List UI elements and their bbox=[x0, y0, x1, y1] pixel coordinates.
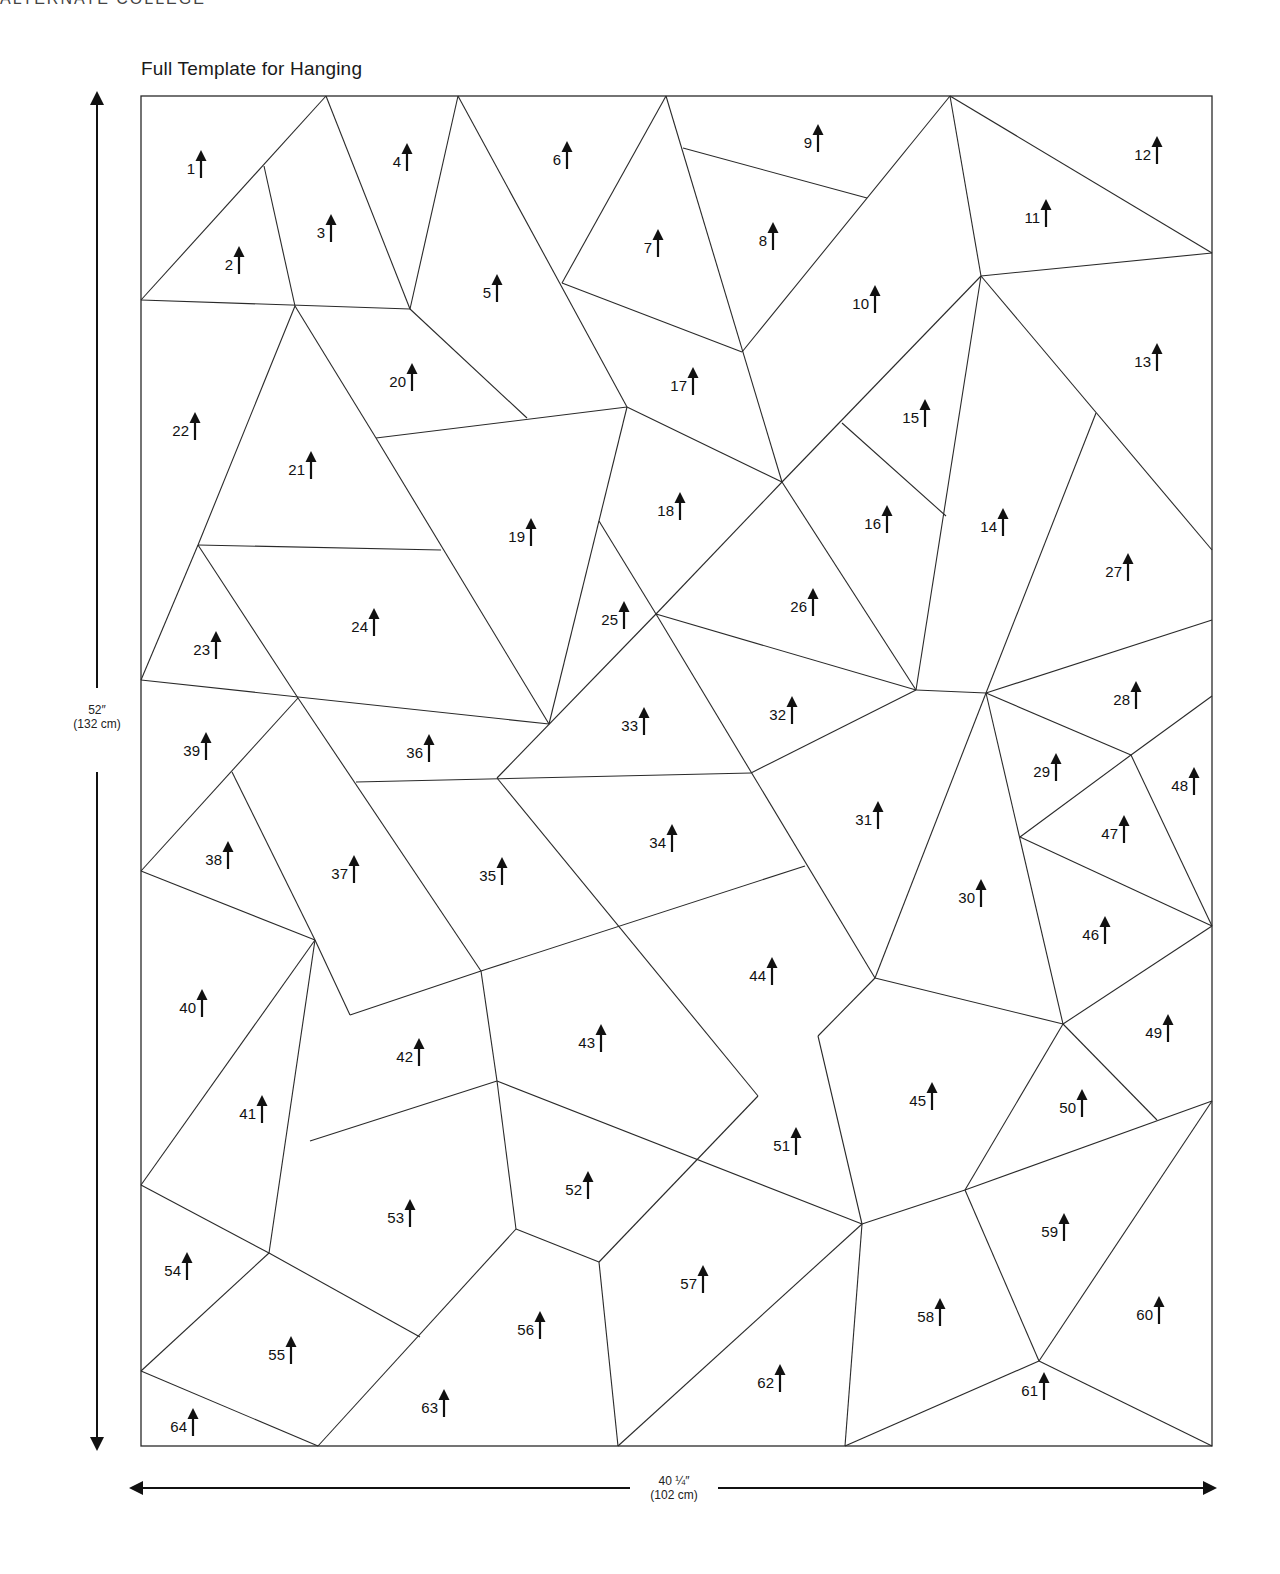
piece-number: 8 bbox=[759, 232, 767, 249]
piece-number: 37 bbox=[331, 865, 348, 882]
piece-label-57: 57 bbox=[680, 1265, 708, 1293]
up-arrow-icon bbox=[1100, 916, 1111, 944]
piece-label-30: 30 bbox=[958, 879, 986, 907]
piece-label-40: 40 bbox=[179, 989, 207, 1017]
piece-label-28: 28 bbox=[1113, 681, 1141, 709]
piece-edge bbox=[1039, 1361, 1212, 1446]
up-arrow-icon bbox=[424, 734, 435, 762]
piece-number: 19 bbox=[508, 528, 525, 545]
piece-label-64: 64 bbox=[170, 1408, 198, 1436]
piece-label-2: 2 bbox=[225, 246, 245, 274]
piece-label-47: 47 bbox=[1101, 815, 1129, 843]
piece-label-55: 55 bbox=[268, 1336, 296, 1364]
piece-label-17: 17 bbox=[670, 367, 698, 395]
up-arrow-icon bbox=[873, 801, 884, 829]
piece-edge bbox=[376, 438, 549, 724]
up-arrow-icon bbox=[349, 855, 360, 883]
piece-edge bbox=[986, 620, 1212, 693]
piece-edge bbox=[141, 680, 549, 724]
up-arrow-icon bbox=[667, 824, 678, 852]
up-arrow-icon bbox=[920, 399, 931, 427]
up-arrow-icon bbox=[439, 1389, 450, 1417]
piece-edges bbox=[141, 96, 1212, 1446]
piece-number: 41 bbox=[239, 1105, 256, 1122]
piece-edge bbox=[141, 300, 410, 309]
piece-edge bbox=[410, 96, 458, 309]
piece-number: 35 bbox=[479, 867, 496, 884]
piece-label-5: 5 bbox=[483, 274, 503, 302]
piece-edge bbox=[1020, 837, 1212, 926]
up-arrow-icon bbox=[1039, 1372, 1050, 1400]
up-arrow-icon bbox=[306, 451, 317, 479]
piece-number: 20 bbox=[389, 373, 406, 390]
piece-edge bbox=[599, 1262, 618, 1446]
piece-edge bbox=[516, 1229, 599, 1262]
up-arrow-icon bbox=[639, 707, 650, 735]
piece-number: 27 bbox=[1105, 563, 1122, 580]
up-arrow-icon bbox=[369, 608, 380, 636]
up-arrow-icon bbox=[976, 879, 987, 907]
piece-number: 61 bbox=[1021, 1382, 1038, 1399]
piece-label-37: 37 bbox=[331, 855, 359, 883]
up-arrow-icon bbox=[1154, 1296, 1165, 1324]
up-arrow-icon bbox=[234, 246, 245, 274]
piece-label-38: 38 bbox=[205, 841, 233, 869]
up-arrow-icon bbox=[286, 1336, 297, 1364]
piece-number: 12 bbox=[1134, 146, 1151, 163]
piece-edge bbox=[298, 698, 481, 971]
piece-edge bbox=[318, 1229, 516, 1446]
up-arrow-icon bbox=[935, 1298, 946, 1326]
up-arrow-icon bbox=[808, 588, 819, 616]
up-arrow-icon bbox=[182, 1252, 193, 1280]
piece-number: 56 bbox=[517, 1321, 534, 1338]
piece-number: 59 bbox=[1041, 1223, 1058, 1240]
piece-edge bbox=[410, 309, 527, 418]
up-arrow-icon bbox=[197, 989, 208, 1017]
piece-edge bbox=[141, 1185, 269, 1253]
up-arrow-icon bbox=[1152, 343, 1163, 371]
up-arrow-icon bbox=[791, 1127, 802, 1155]
piece-edge bbox=[618, 1224, 862, 1446]
piece-edge bbox=[916, 690, 986, 693]
piece-edge bbox=[356, 773, 751, 782]
up-arrow-icon bbox=[1152, 136, 1163, 164]
piece-edge bbox=[875, 693, 986, 978]
up-arrow-icon bbox=[326, 214, 337, 242]
up-arrow-icon bbox=[596, 1024, 607, 1052]
piece-edge bbox=[198, 545, 298, 698]
piece-label-58: 58 bbox=[917, 1298, 945, 1326]
piece-edge bbox=[842, 423, 946, 516]
piece-label-32: 32 bbox=[769, 696, 797, 724]
up-arrow-icon bbox=[562, 141, 573, 169]
piece-number: 15 bbox=[902, 409, 919, 426]
up-arrow-icon bbox=[535, 1311, 546, 1339]
piece-label-35: 35 bbox=[479, 857, 507, 885]
piece-number: 53 bbox=[387, 1209, 404, 1226]
piece-edge bbox=[481, 971, 497, 1081]
piece-edge bbox=[916, 276, 981, 690]
piece-edge bbox=[986, 693, 1063, 1024]
piece-number: 30 bbox=[958, 889, 975, 906]
up-arrow-icon bbox=[675, 492, 686, 520]
piece-edge bbox=[198, 306, 295, 545]
piece-edge bbox=[627, 407, 782, 482]
piece-edge bbox=[782, 482, 916, 690]
piece-number: 9 bbox=[804, 134, 812, 151]
piece-label-6: 6 bbox=[553, 141, 573, 169]
piece-number: 52 bbox=[565, 1181, 582, 1198]
piece-edge bbox=[141, 698, 298, 871]
piece-label-39: 39 bbox=[183, 732, 211, 760]
piece-number: 50 bbox=[1059, 1099, 1076, 1116]
piece-edge bbox=[950, 96, 1212, 253]
piece-labels: 1234567891011121314151617181920212223242… bbox=[164, 124, 1199, 1436]
piece-label-51: 51 bbox=[773, 1127, 801, 1155]
piece-number: 51 bbox=[773, 1137, 790, 1154]
piece-number: 58 bbox=[917, 1308, 934, 1325]
piece-label-11: 11 bbox=[1024, 199, 1051, 227]
piece-number: 31 bbox=[855, 811, 872, 828]
up-arrow-icon bbox=[405, 1199, 416, 1227]
piece-number: 5 bbox=[483, 284, 491, 301]
up-arrow-icon bbox=[688, 367, 699, 395]
up-arrow-icon bbox=[1051, 753, 1062, 781]
piece-label-21: 21 bbox=[288, 451, 316, 479]
